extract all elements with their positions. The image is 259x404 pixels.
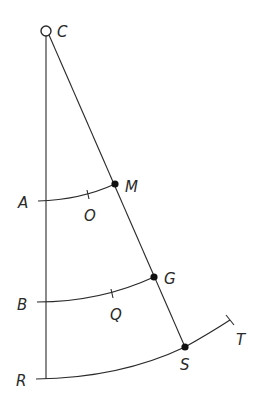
tick-Q (111, 289, 113, 298)
label-S: S (180, 356, 190, 374)
point-M-dot (111, 180, 118, 187)
point-S-dot (181, 343, 188, 350)
label-Q: Q (110, 306, 122, 324)
arc-AM (38, 184, 115, 201)
label-R: R (16, 372, 26, 390)
point-C-open-circle (41, 26, 51, 36)
point-G-dot (150, 273, 157, 280)
tick-T (226, 315, 234, 325)
label-G: G (164, 270, 176, 288)
label-O: O (84, 207, 96, 225)
label-A: A (17, 194, 28, 212)
arc-RT (36, 320, 230, 379)
label-T: T (236, 331, 247, 349)
arc-BG (37, 277, 154, 302)
label-M: M (125, 178, 138, 196)
label-C: C (57, 23, 68, 41)
label-B: B (17, 296, 27, 314)
geometry-diagram: C M A O G B Q S T R (0, 0, 259, 404)
